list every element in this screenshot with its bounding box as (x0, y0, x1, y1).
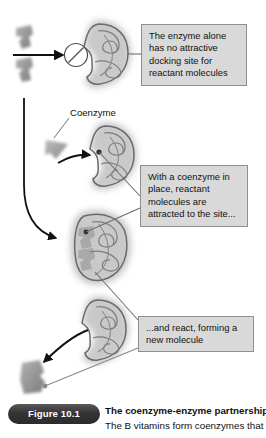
caption-body: The B vitamins form coenzymes that (105, 420, 265, 433)
callout-coenzyme-in-place: With a coenzyme in place, reactant molec… (140, 165, 248, 227)
coenzyme-binding-arrow (58, 155, 90, 163)
coenzyme-label: Coenzyme (70, 107, 116, 119)
recycle-arrow (24, 98, 56, 238)
callout-enzyme-alone: The enzyme alone has no attractive docki… (141, 24, 247, 86)
figure-caption: Figure 10.1 The coenzyme-enzyme partners… (0, 402, 266, 438)
figure-container: Coenzyme The enzyme alone has no attract… (0, 0, 266, 438)
product-molecule (20, 360, 45, 394)
stage-1-enzyme-alone (13, 20, 141, 88)
product-release-arrow (44, 330, 88, 362)
figure-number-pill: Figure 10.1 (8, 404, 100, 424)
caption-title: The coenzyme-enzyme partnership. (105, 405, 266, 417)
stage-4-product-released (20, 296, 138, 394)
reactant-molecule-a (16, 25, 33, 49)
no-docking-site-symbol (65, 44, 88, 67)
coenzyme-molecule (45, 140, 68, 159)
reactant-molecule-b (16, 57, 33, 82)
coenzyme-leader-line (54, 118, 69, 138)
callout-react-forming: ...and react, forming a new molecule (138, 316, 254, 352)
stage-2-coenzyme-binding (45, 118, 140, 196)
